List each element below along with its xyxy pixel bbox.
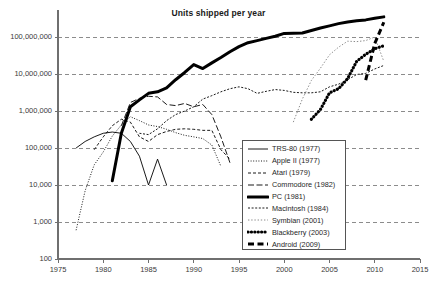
x-axis-tick-label: 1980 bbox=[83, 265, 123, 274]
legend-line-sample-icon bbox=[247, 192, 269, 202]
legend-item-label: Macintosh (1984) bbox=[272, 204, 328, 213]
legend-item-label: Blackberry (2003) bbox=[272, 228, 330, 237]
y-axis-tick-label: 100 bbox=[0, 254, 52, 263]
legend-line-sample-icon bbox=[247, 156, 269, 166]
axis-tick-marks bbox=[55, 37, 421, 263]
legend-item[interactable]: Symbian (2001) bbox=[243, 214, 345, 226]
legend-item-label: Symbian (2001) bbox=[272, 216, 324, 225]
legend-line-sample-icon bbox=[247, 227, 269, 237]
series-line-macintosh bbox=[139, 65, 383, 134]
x-axis-tick-label: 2005 bbox=[310, 265, 350, 274]
grid-lines bbox=[58, 37, 420, 259]
chart-plot-area bbox=[0, 0, 437, 287]
chart-legend[interactable]: TRS-80 (1977)Apple II (1977)Atari (1979)… bbox=[242, 140, 346, 250]
x-axis-tick-label: 1985 bbox=[129, 265, 169, 274]
legend-item[interactable]: Atari (1979) bbox=[243, 167, 345, 179]
legend-line-sample-icon bbox=[247, 168, 269, 178]
legend-item[interactable]: Android (2009) bbox=[243, 238, 345, 250]
legend-item[interactable]: Blackberry (2003) bbox=[243, 226, 345, 238]
legend-item[interactable]: Commodore (1982) bbox=[243, 179, 345, 191]
legend-line-sample-icon bbox=[247, 180, 269, 190]
legend-item-label: Commodore (1982) bbox=[272, 180, 335, 189]
legend-item[interactable]: PC (1981) bbox=[243, 191, 345, 203]
x-axis-tick-label: 1995 bbox=[219, 265, 259, 274]
y-axis-tick-label: 10,000 bbox=[0, 180, 52, 189]
legend-line-sample-icon bbox=[247, 144, 269, 154]
x-axis-tick-label: 2000 bbox=[264, 265, 304, 274]
legend-line-sample-icon bbox=[247, 215, 269, 225]
chart-root: Units shipped per year 1001,00010,000100… bbox=[0, 0, 437, 287]
legend-line-sample-icon bbox=[247, 203, 269, 213]
series-line-symbian bbox=[293, 37, 384, 122]
y-axis-tick-label: 1,000 bbox=[0, 217, 52, 226]
legend-item[interactable]: Apple II (1977) bbox=[243, 155, 345, 167]
y-axis-tick-label: 1,000,000 bbox=[0, 106, 52, 115]
legend-item-label: TRS-80 (1977) bbox=[272, 144, 320, 153]
y-axis-tick-label: 100,000,000 bbox=[0, 32, 52, 41]
x-axis-tick-label: 2015 bbox=[400, 265, 437, 274]
series-line-apple bbox=[76, 117, 221, 230]
x-axis-tick-label: 2010 bbox=[355, 265, 395, 274]
y-axis-tick-label: 10,000,000 bbox=[0, 69, 52, 78]
series-line-android bbox=[366, 22, 384, 80]
legend-line-sample-icon bbox=[247, 239, 269, 249]
legend-item-label: Atari (1979) bbox=[272, 168, 310, 177]
y-axis-tick-label: 100,000 bbox=[0, 143, 52, 152]
legend-item-label: Apple II (1977) bbox=[272, 156, 320, 165]
legend-item[interactable]: TRS-80 (1977) bbox=[243, 143, 345, 155]
x-axis-tick-label: 1990 bbox=[174, 265, 214, 274]
legend-item-label: Android (2009) bbox=[272, 240, 320, 249]
x-axis-tick-label: 1975 bbox=[38, 265, 78, 274]
legend-item[interactable]: Macintosh (1984) bbox=[243, 202, 345, 214]
legend-item-label: PC (1981) bbox=[272, 192, 305, 201]
